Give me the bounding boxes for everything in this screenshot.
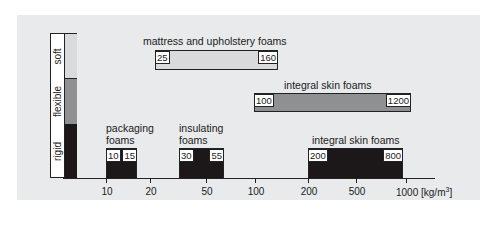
bar-max-label: 55 [209, 149, 224, 162]
bar-min-label: 100 [254, 94, 274, 107]
legend-swatch-rigid [64, 124, 77, 178]
x-tick-label: 10 [101, 186, 112, 197]
bar-integral-skin-rigid: 200 800 [308, 148, 403, 179]
x-tick [206, 178, 207, 183]
x-tick-label-last: 1000 [kg/m3] [396, 186, 452, 198]
bar-max-label: 1200 [386, 94, 411, 107]
bar-max-label: 800 [383, 149, 403, 162]
unit-label: [kg/m [421, 187, 445, 198]
bar-min-label: 30 [179, 149, 194, 162]
category-legend: soft flexible rigid [50, 33, 77, 178]
legend-label-soft: soft [51, 34, 64, 79]
bar-min-label: 25 [155, 51, 170, 64]
bar-title-integral-rigid: integral skin foams [312, 134, 400, 146]
x-tick-label: 20 [145, 186, 156, 197]
unit-bracket: ] [449, 187, 452, 198]
bar-mattress-upholstery: 25 160 [155, 50, 278, 70]
x-tick [150, 178, 151, 183]
title-line: foams [106, 134, 154, 146]
bar-title-mattress: mattress and upholstery foams [143, 35, 287, 47]
legend-text-rigid: rigid [52, 142, 63, 161]
legend-text-flexible: flexible [52, 86, 63, 117]
title-line: insulating [179, 122, 223, 134]
legend-text-soft: soft [52, 48, 63, 64]
bar-title-insulating: insulating foams [179, 122, 223, 146]
bar-max-label: 15 [122, 149, 137, 162]
bar-min-label: 200 [308, 149, 328, 162]
legend-label-flexible: flexible [51, 79, 64, 124]
bar-title-packaging: packaging foams [106, 122, 154, 146]
bar-packaging-foams: 10 15 [106, 148, 137, 179]
legend-label-rigid: rigid [51, 124, 64, 178]
x-tick-label: 500 [349, 186, 366, 197]
x-tick [255, 178, 256, 183]
x-tick-label: 50 [201, 186, 212, 197]
bar-title-integral-flexible: integral skin foams [284, 79, 372, 91]
x-tick [406, 178, 407, 183]
x-tick-label: 100 [248, 186, 265, 197]
bar-insulating-foams: 30 55 [179, 148, 224, 179]
title-line: packaging [106, 122, 154, 134]
x-tick [356, 178, 357, 183]
x-tick [308, 178, 309, 183]
title-line: foams [179, 134, 223, 146]
bar-integral-skin-flexible: 100 1200 [254, 93, 411, 112]
tick-value: 1000 [396, 187, 418, 198]
bar-min-label: 10 [106, 149, 121, 162]
x-axis-line [63, 178, 435, 179]
x-tick [106, 178, 107, 183]
legend-swatch-flexible [64, 79, 77, 124]
legend-swatch-soft [64, 34, 77, 79]
bar-max-label: 160 [258, 51, 278, 64]
x-tick-label: 200 [301, 186, 318, 197]
